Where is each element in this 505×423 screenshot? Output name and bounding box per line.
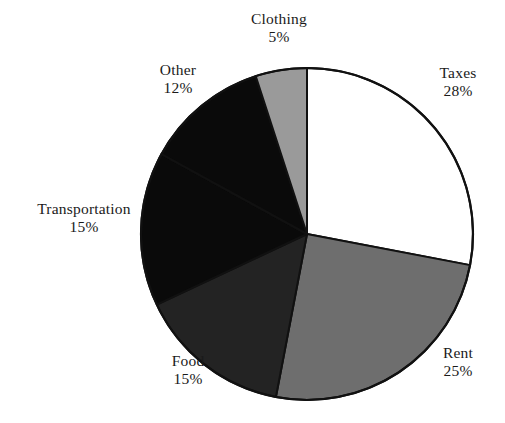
pie-label-other: Other 12%: [130, 61, 226, 98]
pie-label-taxes-name: Taxes: [420, 64, 496, 82]
pie-label-taxes: Taxes 28%: [420, 64, 496, 101]
pie-label-rent-value: 25%: [420, 362, 496, 380]
pie-chart: Clothing 5% Other 12% Taxes 28% Transpor…: [0, 0, 505, 423]
pie-label-food-value: 15%: [150, 370, 226, 388]
pie-label-transportation-value: 15%: [14, 218, 154, 236]
pie-label-transportation-name: Transportation: [14, 200, 154, 218]
pie-label-other-name: Other: [130, 61, 226, 79]
pie-label-clothing: Clothing 5%: [224, 10, 334, 47]
pie-label-rent-name: Rent: [420, 344, 496, 362]
pie-label-other-value: 12%: [130, 79, 226, 97]
pie-label-transportation: Transportation 15%: [14, 200, 154, 237]
pie-label-food: Food 15%: [150, 352, 226, 389]
pie-label-clothing-value: 5%: [224, 28, 334, 46]
pie-label-rent: Rent 25%: [420, 344, 496, 381]
pie-label-clothing-name: Clothing: [224, 10, 334, 28]
pie-label-taxes-value: 28%: [420, 82, 496, 100]
pie-label-food-name: Food: [150, 352, 226, 370]
